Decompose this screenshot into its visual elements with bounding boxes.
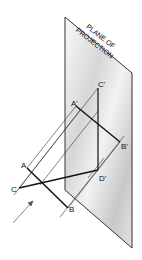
sight-direction-arrow: [13, 201, 33, 223]
label-b: B: [69, 205, 74, 214]
label-d-prime: D': [99, 174, 107, 183]
label-a: A: [21, 161, 27, 170]
label-c: C: [11, 185, 17, 194]
label-b-prime: B': [121, 142, 128, 151]
label-c-prime: C': [98, 80, 106, 89]
projection-diagram: PLANE OF PROJECTION A B C A' B' C' D': [0, 0, 142, 260]
label-a-prime: A': [71, 99, 78, 108]
